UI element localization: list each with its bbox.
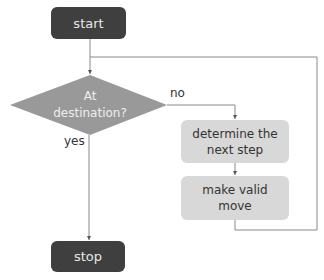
start-node: start <box>51 7 126 39</box>
start-label: start <box>73 16 103 31</box>
determine-label-line2: next step <box>207 142 263 158</box>
make-valid-move-node: make valid move <box>181 176 289 220</box>
edge-label-yes: yes <box>64 134 85 148</box>
determine-label-line1: determine the <box>192 126 277 142</box>
decision-label-line1: At <box>30 88 150 105</box>
decision-label-line2: destination? <box>30 105 150 122</box>
decision-label: At destination? <box>30 88 150 122</box>
move-label-line1: make valid <box>202 182 268 198</box>
stop-label: stop <box>74 249 102 264</box>
stop-node: stop <box>51 241 125 272</box>
move-label-line2: move <box>218 198 252 214</box>
edge-label-no: no <box>170 86 185 100</box>
edge-no <box>167 105 235 119</box>
determine-next-step-node: determine the next step <box>181 120 289 163</box>
